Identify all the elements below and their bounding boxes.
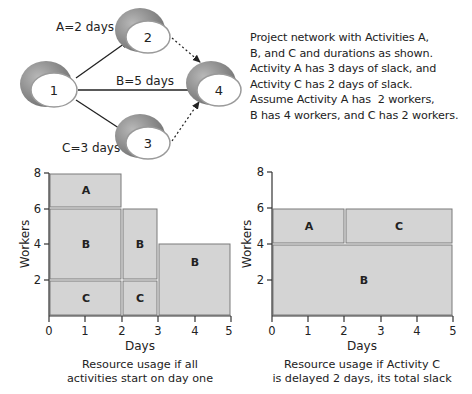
chart-left-xtick-labels: 0 1 2 3 4 5 [45, 324, 232, 338]
description-line: Project network with Activities A, [250, 30, 472, 46]
chart-right: A C B 8 6 4 2 0 1 2 3 [240, 165, 457, 353]
ytick-label: 6 [257, 201, 264, 215]
caption-line: activities start on day one [40, 372, 240, 386]
xtick-label: 1 [304, 324, 311, 338]
xtick-label: 2 [340, 324, 347, 338]
caption-line: is delayed 2 days, its total slack [262, 372, 462, 386]
x-axis-label: Days [347, 339, 377, 353]
edge-3-4-dummy [172, 102, 199, 141]
xtick-label: 3 [154, 324, 161, 338]
description-line: Activity A has 3 days of slack, and [250, 61, 472, 77]
xtick-label: 1 [81, 324, 88, 338]
xtick-label: 4 [191, 324, 198, 338]
node-1-label: 1 [50, 83, 58, 98]
description-line: B, and C and durations as shown. [250, 46, 472, 62]
ytick-label: 6 [34, 202, 41, 216]
node-2: 2 [115, 8, 170, 53]
block-label: B [191, 256, 199, 269]
x-axis-label: Days [125, 339, 155, 353]
ytick-label: 4 [34, 237, 41, 251]
node-4-label: 4 [215, 83, 223, 98]
description-line: Activity C has 2 days of slack. [250, 77, 472, 93]
edge-a [76, 41, 128, 78]
block-label: A [82, 184, 91, 197]
caption-line: Resource usage if all [40, 358, 240, 372]
chart-right-ytick-labels: 8 6 4 2 [257, 165, 264, 287]
xtick-label: 0 [45, 324, 52, 338]
block-label: C [395, 220, 403, 233]
ytick-label: 8 [34, 166, 41, 180]
block-label: B [82, 238, 90, 251]
node-4: 4 [186, 61, 241, 106]
ytick-label: 8 [257, 165, 264, 179]
block-label: B [136, 238, 144, 251]
node-3-label: 3 [144, 136, 152, 151]
caption-line: Resource usage if Activity C [262, 358, 462, 372]
chart-left: A B C B C B 8 6 4 2 [18, 166, 233, 353]
block-label: A [305, 220, 314, 233]
edge-label-a: A=2 days [56, 20, 114, 34]
xtick-label: 3 [377, 324, 384, 338]
project-network: A=2 days B=5 days C=3 days 1 2 3 4 [20, 8, 241, 159]
block-label: C [136, 292, 144, 305]
chart-left-ytick-labels: 8 6 4 2 [34, 166, 41, 287]
edge-label-c: C=3 days [62, 141, 120, 155]
node-1: 1 [20, 61, 77, 107]
node-2-label: 2 [144, 30, 152, 45]
node-3: 3 [115, 114, 170, 159]
xtick-label: 4 [413, 324, 420, 338]
xtick-label: 0 [268, 324, 275, 338]
chart-right-xtick-labels: 0 1 2 3 4 5 [268, 324, 456, 338]
description-line: Assume Activity A has 2 workers, [250, 92, 472, 108]
y-axis-label: Workers [240, 220, 254, 269]
edge-label-b: B=5 days [116, 74, 174, 88]
xtick-label: 5 [225, 324, 232, 338]
block-label: B [360, 274, 368, 287]
xtick-label: 2 [118, 324, 125, 338]
xtick-label: 5 [449, 324, 456, 338]
chart-right-bars [273, 209, 452, 315]
network-description: Project network with Activities A, B, an… [250, 30, 472, 123]
ytick-label: 2 [34, 273, 41, 287]
ytick-label: 2 [257, 273, 264, 287]
block-b [159, 244, 230, 315]
y-axis-label: Workers [18, 220, 32, 269]
description-line: B has 4 workers, and C has 2 workers. [250, 108, 472, 124]
chart-left-caption: Resource usage if all activities start o… [40, 358, 240, 386]
ytick-label: 4 [257, 237, 264, 251]
chart-right-caption: Resource usage if Activity C is delayed … [262, 358, 462, 386]
edge-2-4-dummy [172, 38, 200, 62]
block-label: C [82, 292, 90, 305]
